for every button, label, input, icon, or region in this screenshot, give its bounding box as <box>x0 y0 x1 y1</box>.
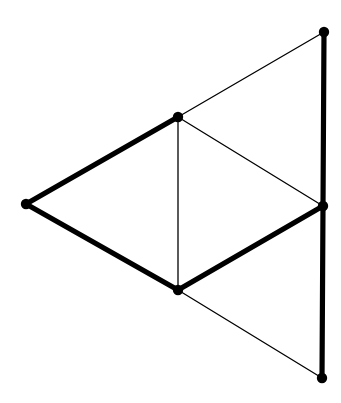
vertex-center-top <box>173 112 183 122</box>
vertex-right-middle <box>318 201 328 211</box>
edge-right-middle-to-bottom-right <box>322 206 323 378</box>
diagram-canvas <box>0 0 341 403</box>
vertex-center-bottom <box>173 285 183 295</box>
edge-top-right-to-right-middle <box>323 32 324 206</box>
lattice-figure <box>0 0 341 403</box>
vertex-top-right <box>319 27 329 37</box>
vertex-left-apex <box>21 199 31 209</box>
vertex-bottom-right <box>317 373 327 383</box>
background <box>0 0 341 403</box>
